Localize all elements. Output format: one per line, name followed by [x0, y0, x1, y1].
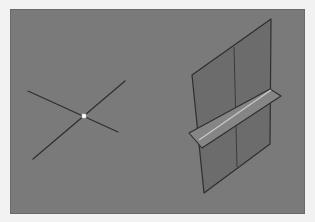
line-curve-b[interactable] — [33, 81, 125, 159]
scene-canvas[interactable] — [0, 0, 315, 222]
viewport-frame — [0, 0, 315, 222]
intersection-point-marker[interactable] — [82, 114, 86, 118]
